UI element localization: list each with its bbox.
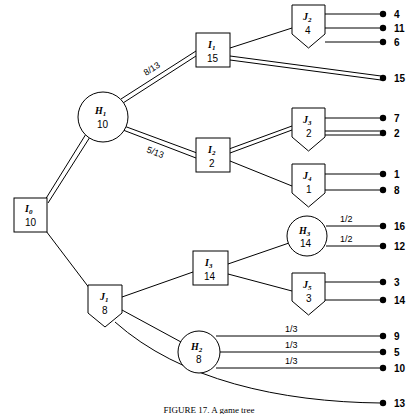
edge-j5-terminals xyxy=(325,282,381,300)
terminal-node: 1 xyxy=(380,169,400,180)
node-J5-subscript: 5 xyxy=(308,284,312,292)
node-H3-subscript: 3 xyxy=(306,230,311,238)
terminal-node: 3 xyxy=(380,277,400,288)
terminal-payoff: 9 xyxy=(394,331,400,342)
edge-i1-t15 xyxy=(230,56,381,80)
tree-canvas: I0 10 H1 10 I1 15 J2 4 xyxy=(0,0,418,414)
node-I3-value: 14 xyxy=(204,271,216,282)
node-I1-subscript: 1 xyxy=(212,44,216,52)
terminal-payoff: 5 xyxy=(394,347,400,358)
svg-text:5/13: 5/13 xyxy=(145,145,165,161)
edge-i3-j5 xyxy=(228,274,292,291)
terminal-node: 2 xyxy=(380,128,400,139)
terminal-payoff: 1 xyxy=(394,169,400,180)
terminal-node: 14 xyxy=(380,295,406,306)
svg-text:1/2: 1/2 xyxy=(340,234,353,244)
node-I3[interactable]: I3 14 xyxy=(193,251,228,285)
node-H3[interactable]: H3 14 xyxy=(287,216,327,256)
terminal-node: 12 xyxy=(380,241,406,252)
node-I2[interactable]: I2 2 xyxy=(196,138,230,172)
edge-i1-j2 xyxy=(230,28,292,48)
terminal-payoff: 2 xyxy=(394,128,400,139)
edge-label-h3-2: 1/2 xyxy=(340,234,353,244)
terminal-node: 7 xyxy=(380,113,400,124)
node-H2-value: 8 xyxy=(196,354,202,365)
edge-label-h2-1: 1/3 xyxy=(285,324,298,334)
node-J3[interactable]: J3 2 xyxy=(292,108,325,151)
node-H1[interactable]: H1 10 xyxy=(78,92,128,142)
edge-j2-terminals xyxy=(325,14,381,42)
terminal-node: 16 xyxy=(380,221,406,232)
terminal-node: 15 xyxy=(380,73,406,84)
terminal-payoff: 6 xyxy=(394,37,400,48)
game-tree-figure: I0 10 H1 10 I1 15 J2 4 xyxy=(0,0,418,414)
node-J2[interactable]: J2 4 xyxy=(292,5,325,48)
terminal-node: 11 xyxy=(380,23,405,34)
terminal-payoff: 10 xyxy=(394,363,406,374)
edge-label-h2-2: 1/3 xyxy=(285,340,298,350)
terminal-node: 4 xyxy=(380,9,400,20)
edge-i2-j3 xyxy=(229,126,292,153)
node-H1-subscript: 1 xyxy=(103,110,107,118)
node-I2-value: 2 xyxy=(209,158,215,169)
terminal-layer: 4 11 6 15 7 2 xyxy=(380,9,406,409)
node-I0[interactable]: I0 10 xyxy=(14,198,47,232)
edge-label-h3-1: 1/2 xyxy=(340,214,353,224)
terminal-payoff: 7 xyxy=(394,113,400,124)
svg-text:1/3: 1/3 xyxy=(285,356,298,366)
terminal-node: 9 xyxy=(380,331,400,342)
figure-caption: FIGURE 17. A game tree xyxy=(0,405,418,414)
node-I0-subscript: 0 xyxy=(29,208,33,216)
edge-j1-h2 xyxy=(122,310,181,342)
node-J5-value: 3 xyxy=(306,293,312,304)
terminal-node: 6 xyxy=(380,37,400,48)
edge-j3-terminals xyxy=(325,118,381,135)
terminal-node: 5 xyxy=(380,347,400,358)
node-H1-value: 10 xyxy=(97,119,109,130)
terminal-payoff: 16 xyxy=(394,221,406,232)
node-J1[interactable]: J1 8 xyxy=(88,285,122,327)
node-I1[interactable]: I1 15 xyxy=(196,33,230,67)
terminal-node: 10 xyxy=(380,363,406,374)
svg-text:1/3: 1/3 xyxy=(285,340,298,350)
edge-j1-t13 xyxy=(115,322,381,403)
node-I0-value: 10 xyxy=(25,217,37,228)
edge-h2-terminals xyxy=(216,336,381,368)
svg-text:1/2: 1/2 xyxy=(340,214,353,224)
node-J3-subscript: 3 xyxy=(307,119,312,127)
edge-i2-j4 xyxy=(230,161,292,186)
node-J1-subscript: 1 xyxy=(105,296,109,304)
edge-j4-terminals xyxy=(325,174,381,190)
node-I1-value: 15 xyxy=(207,53,219,64)
terminal-payoff: 8 xyxy=(394,185,400,196)
terminal-payoff: 11 xyxy=(394,23,405,34)
node-H3-value: 14 xyxy=(300,238,312,249)
node-I2-subscript: 2 xyxy=(211,149,216,157)
node-J4-subscript: 4 xyxy=(307,175,312,183)
node-J4[interactable]: J4 1 xyxy=(292,164,325,207)
node-J3-value: 2 xyxy=(306,128,312,139)
terminal-node: 8 xyxy=(380,185,400,196)
svg-text:1/3: 1/3 xyxy=(285,324,298,334)
node-J5[interactable]: J5 3 xyxy=(292,273,325,315)
edge-h1-i1 xyxy=(121,51,196,103)
terminal-payoff: 4 xyxy=(394,9,400,20)
node-J4-value: 1 xyxy=(306,184,312,195)
node-J2-value: 4 xyxy=(305,25,311,36)
node-I3-subscript: 3 xyxy=(208,262,213,270)
node-H2-subscript: 2 xyxy=(198,346,203,354)
edge-i3-h3 xyxy=(228,243,289,264)
edge-i0-h1 xyxy=(45,134,90,203)
terminal-payoff: 12 xyxy=(394,241,406,252)
terminal-payoff: 14 xyxy=(394,295,406,306)
edge-label-5-13: 5/13 xyxy=(145,145,165,161)
terminal-payoff: 3 xyxy=(394,277,400,288)
edge-label-h2-3: 1/3 xyxy=(285,356,298,366)
edge-j1-i3 xyxy=(122,272,193,297)
node-J2-subscript: 2 xyxy=(307,16,312,24)
edge-h3-terminals xyxy=(326,226,381,246)
terminal-payoff: 15 xyxy=(394,73,406,84)
node-J1-value: 8 xyxy=(102,305,108,316)
edge-i0-j1 xyxy=(46,231,90,289)
node-H2[interactable]: H2 8 xyxy=(178,331,220,373)
